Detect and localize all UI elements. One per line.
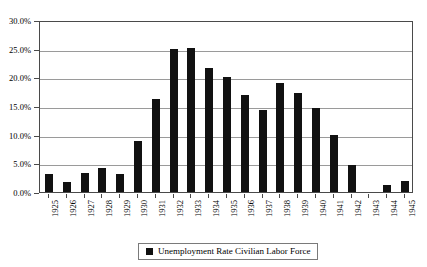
y-axis-tick-label: 30.0% <box>9 17 31 26</box>
x-axis-tick-label: 1932 <box>176 200 185 217</box>
x-axis-tick-mark <box>368 194 369 198</box>
legend-swatch-icon <box>146 248 153 255</box>
x-axis-tick-mark <box>190 194 191 198</box>
x-axis-tick-mark <box>226 194 227 198</box>
x-axis-tick-label: 1938 <box>283 200 292 217</box>
x-axis-tick-mark <box>297 194 298 198</box>
bar <box>276 83 284 192</box>
x-axis-tick-mark <box>262 194 263 198</box>
bar <box>187 48 195 192</box>
y-axis-tick-label: 0.0% <box>13 189 31 198</box>
x-axis-tick-label: 1928 <box>105 200 114 217</box>
x-axis-tick-mark <box>333 194 334 198</box>
x-axis-tick-mark <box>137 194 138 198</box>
y-axis-tick-label: 10.0% <box>9 131 31 140</box>
x-axis-tick-label: 1942 <box>354 200 363 217</box>
plot-area <box>39 21 413 193</box>
x-axis-tick-mark <box>48 194 49 198</box>
bar <box>63 182 71 192</box>
x-axis-tick-label: 1940 <box>319 200 328 217</box>
x-axis-tick-mark <box>208 194 209 198</box>
bar <box>152 99 160 192</box>
x-axis-tick-label: 1934 <box>212 200 221 217</box>
x-axis-tick-label: 1935 <box>230 200 239 217</box>
bar <box>401 181 409 192</box>
x-axis-tick-label: 1927 <box>87 200 96 217</box>
bar <box>383 185 391 192</box>
bar <box>170 49 178 192</box>
x-axis-tick-mark <box>155 194 156 198</box>
bar <box>116 174 124 192</box>
x-axis-tick-mark <box>119 194 120 198</box>
x-axis-tick-label: 1930 <box>140 200 149 217</box>
x-axis-tick-label: 1926 <box>69 200 78 217</box>
y-axis: 0.0%5.0%10.0%15.0%20.0%25.0%30.0% <box>0 0 39 214</box>
unemployment-rate-bar-chart: 0.0%5.0%10.0%15.0%20.0%25.0%30.0% 192519… <box>0 0 427 267</box>
x-axis-tick-mark <box>66 194 67 198</box>
x-axis-tick-mark <box>101 194 102 198</box>
y-axis-tick-label: 25.0% <box>9 45 31 54</box>
bar <box>223 77 231 192</box>
bar <box>330 135 338 192</box>
x-axis-tick-mark <box>244 194 245 198</box>
x-axis-tick-label: 1939 <box>301 200 310 217</box>
y-axis-tick-label: 20.0% <box>9 74 31 83</box>
bar <box>81 173 89 192</box>
x-axis-tick-label: 1945 <box>408 200 417 217</box>
x-axis-tick-mark <box>351 194 352 198</box>
bar <box>45 174 53 192</box>
y-axis-tick-label: 5.0% <box>13 160 31 169</box>
gridline <box>40 51 412 52</box>
legend-label: Unemployment Rate Civilian Labor Force <box>158 247 310 256</box>
x-axis-tick-mark <box>84 194 85 198</box>
bar <box>134 141 142 192</box>
x-axis-tick-mark <box>173 194 174 198</box>
x-axis-tick-mark <box>315 194 316 198</box>
x-axis-tick-mark <box>279 194 280 198</box>
chart-legend: Unemployment Rate Civilian Labor Force <box>138 243 318 260</box>
x-axis: 1925192619271928192919301931193219331934… <box>39 194 413 238</box>
bar <box>241 95 249 192</box>
x-axis-tick-mark <box>386 194 387 198</box>
x-axis-tick-label: 1937 <box>265 200 274 217</box>
x-axis-tick-label: 1941 <box>336 200 345 217</box>
x-axis-tick-label: 1931 <box>158 200 167 217</box>
bar <box>98 168 106 192</box>
bar <box>294 93 302 192</box>
x-axis-tick-label: 1936 <box>247 200 256 217</box>
x-axis-tick-label: 1929 <box>123 200 132 217</box>
x-axis-tick-label: 1925 <box>51 200 60 217</box>
bar <box>205 68 213 192</box>
bar <box>312 108 320 192</box>
x-axis-tick-label: 1944 <box>390 200 399 217</box>
bar <box>348 165 356 192</box>
x-axis-tick-mark <box>404 194 405 198</box>
chart-title <box>30 0 400 5</box>
bar <box>259 110 267 192</box>
y-axis-tick-label: 15.0% <box>9 103 31 112</box>
x-axis-tick-label: 1933 <box>194 200 203 217</box>
x-axis-tick-label: 1943 <box>372 200 381 217</box>
